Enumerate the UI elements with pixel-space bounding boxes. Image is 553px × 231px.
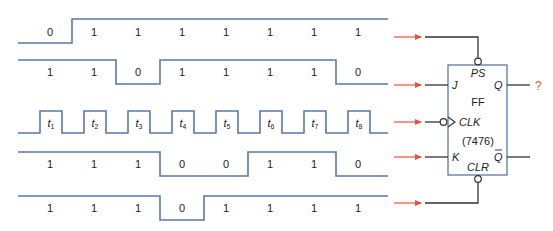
svg-text:1: 1 (267, 158, 273, 170)
svg-text:1: 1 (91, 66, 97, 78)
flipflop-part-number: (7476) (462, 135, 494, 147)
svg-text:1: 1 (311, 158, 317, 170)
pin-label-q: Q (494, 79, 503, 91)
svg-text:t2: t2 (92, 117, 99, 130)
q-unknown-output: ? (535, 79, 542, 93)
svg-text:t4: t4 (180, 117, 187, 130)
pin-label-ps: PS (471, 67, 486, 79)
svg-text:1: 1 (179, 66, 185, 78)
svg-text:0: 0 (179, 202, 185, 214)
svg-text:0: 0 (223, 158, 229, 170)
svg-text:1: 1 (311, 202, 317, 214)
clk-waveform (18, 111, 388, 133)
svg-text:1: 1 (311, 66, 317, 78)
svg-text:1: 1 (91, 202, 97, 214)
svg-text:1: 1 (223, 202, 229, 214)
k-waveform (18, 152, 388, 176)
k-values: 1 1 1 0 0 1 1 0 (47, 158, 361, 170)
svg-text:t6: t6 (268, 117, 275, 130)
pin-label-j: J (451, 79, 458, 91)
svg-text:1: 1 (179, 26, 185, 38)
svg-text:1: 1 (135, 202, 141, 214)
clr-waveform (18, 196, 388, 220)
svg-text:0: 0 (355, 66, 361, 78)
svg-text:1: 1 (223, 26, 229, 38)
svg-text:1: 1 (267, 26, 273, 38)
svg-text:1: 1 (311, 26, 317, 38)
svg-text:1: 1 (47, 158, 53, 170)
ps-waveform (18, 19, 388, 43)
svg-text:1: 1 (267, 202, 273, 214)
svg-text:1: 1 (223, 66, 229, 78)
svg-text:t8: t8 (356, 117, 363, 130)
clr-inversion-bubble-icon (475, 176, 482, 183)
svg-text:t1: t1 (48, 117, 55, 130)
svg-text:0: 0 (355, 158, 361, 170)
pin-label-clr: CLR (467, 161, 489, 173)
svg-text:1: 1 (135, 158, 141, 170)
svg-text:t7: t7 (312, 117, 319, 130)
ps-inversion-bubble-icon (475, 58, 482, 65)
svg-text:1: 1 (267, 66, 273, 78)
svg-text:1: 1 (47, 202, 53, 214)
flipflop-label: FF (471, 96, 485, 108)
svg-text:0: 0 (179, 158, 185, 170)
pin-label-clk: CLK (459, 116, 481, 128)
svg-text:1: 1 (355, 202, 361, 214)
j-values: 1 1 0 1 1 1 1 0 (47, 66, 361, 78)
svg-text:1: 1 (355, 26, 361, 38)
svg-text:t5: t5 (224, 117, 231, 130)
clk-inversion-bubble-icon (440, 119, 447, 126)
svg-text:0: 0 (47, 26, 53, 38)
pin-label-qbar: Q (494, 151, 503, 163)
svg-text:0: 0 (135, 66, 141, 78)
svg-text:1: 1 (135, 26, 141, 38)
svg-text:1: 1 (47, 66, 53, 78)
ps-values: 0 1 1 1 1 1 1 1 (47, 26, 361, 38)
pin-label-k: K (452, 151, 460, 163)
timing-diagram: 0 1 1 1 1 1 1 1 1 1 0 1 1 1 1 0 t1 t2 t3… (0, 0, 553, 231)
clr-wire (425, 183, 478, 204)
svg-text:t3: t3 (136, 117, 143, 130)
clk-pulse-labels: t1 t2 t3 t4 t5 t6 t7 t8 (48, 117, 363, 130)
svg-text:1: 1 (91, 158, 97, 170)
j-waveform (18, 60, 388, 84)
svg-text:1: 1 (91, 26, 97, 38)
ps-wire (425, 37, 478, 58)
